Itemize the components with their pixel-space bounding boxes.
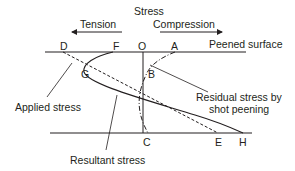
point-label-b: B [148,69,155,80]
point-label-o: O [138,41,146,52]
residual-stress-leader [150,65,208,92]
point-label-a: A [171,41,178,52]
tension-label: Tension [80,19,116,30]
point-label-h: H [239,137,247,148]
applied-stress-callout: Applied stress [15,102,81,113]
point-label-e: E [215,137,222,148]
resultant-stress-callout: Resultant stress [70,155,145,166]
residual-stress-callout-line1: Residual stress by [196,92,282,103]
point-label-f: F [113,41,119,52]
compression-label: Compression [153,19,215,30]
point-label-c: C [143,137,151,148]
applied-stress-leader [47,63,72,97]
residual-stress-callout-line2: shot peening [209,104,269,115]
residual-stress-curve [139,52,175,133]
point-label-d: D [60,41,68,52]
peened-surface-label: Peened surface [209,39,283,50]
resultant-stress-leader [106,95,117,150]
point-label-g: G [81,69,89,80]
chart-title: Stress [134,6,164,17]
